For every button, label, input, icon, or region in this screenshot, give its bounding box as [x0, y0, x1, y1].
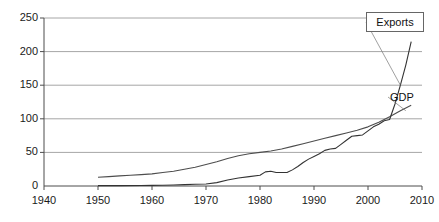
gdp-series-label: GDP — [390, 91, 414, 103]
y-tick-label: 0 — [8, 179, 38, 191]
series-line-gdp — [98, 105, 411, 177]
x-tick-label: 1980 — [240, 194, 280, 206]
y-tick-label: 150 — [8, 78, 38, 90]
x-tick-label: 1960 — [132, 194, 172, 206]
x-tick-label: 2010 — [402, 194, 439, 206]
exports-series-label: Exports — [366, 12, 424, 32]
series-line-exports — [98, 42, 411, 186]
gridline-group — [40, 18, 422, 152]
y-tick-label: 100 — [8, 112, 38, 124]
gdp-label-text: GDP — [390, 91, 414, 103]
y-tick-label: 50 — [8, 145, 38, 157]
x-tick-marks — [44, 186, 422, 190]
axis-group — [44, 18, 422, 186]
exports-label-text: Exports — [376, 16, 413, 28]
x-tick-label: 1950 — [78, 194, 118, 206]
x-tick-label: 1970 — [186, 194, 226, 206]
x-tick-label: 1940 — [24, 194, 64, 206]
x-tick-label: 1990 — [294, 194, 334, 206]
x-tick-label: 2000 — [348, 194, 388, 206]
y-tick-label: 250 — [8, 11, 38, 23]
y-tick-label: 200 — [8, 45, 38, 57]
data-series-group — [98, 22, 411, 186]
